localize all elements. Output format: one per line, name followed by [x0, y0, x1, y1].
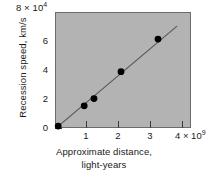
data-point — [155, 36, 162, 43]
x-axis-title-line2: light-years — [0, 159, 208, 172]
x-axis-exponent-text: 4 × 10 — [175, 130, 202, 141]
y-tick-label-4: 4 — [28, 64, 48, 75]
y-tick-label-6: 6 — [28, 35, 48, 46]
x-axis-title-line1: Approximate distance, — [56, 146, 152, 157]
x-axis-exponent-power: 9 — [202, 129, 206, 136]
x-tick-2 — [118, 121, 119, 128]
x-tick-4 — [182, 121, 183, 128]
x-tick-label-2: 2 — [107, 130, 129, 141]
x-tick-label-3: 3 — [139, 130, 161, 141]
data-point — [118, 68, 125, 75]
x-tick-3 — [150, 121, 151, 128]
y-tick-label-0: 0 — [28, 122, 48, 133]
x-axis-exponent-label: 4 × 109 — [175, 130, 206, 141]
plot-canvas — [56, 13, 192, 129]
x-axis-title: Approximate distance, light-years — [0, 146, 208, 171]
data-point — [81, 102, 88, 109]
hubble-diagram-figure: 8 × 104 Recession speed, km/s 6 4 2 0 1 … — [0, 0, 208, 182]
y-tick-label-2: 2 — [28, 93, 48, 104]
x-tick-label-1: 1 — [75, 130, 97, 141]
y-axis-title: Recession speed, km/s — [17, 8, 28, 128]
data-point — [91, 95, 98, 102]
x-tick-1 — [86, 121, 87, 128]
plot-area — [55, 12, 191, 128]
data-point — [55, 123, 62, 130]
y-axis-exponent-power: 4 — [43, 1, 47, 8]
